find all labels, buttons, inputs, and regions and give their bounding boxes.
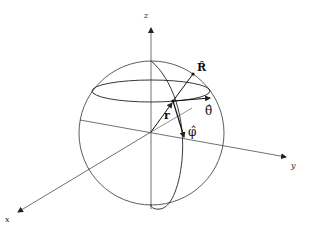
R-hat-label: R̂	[197, 61, 207, 74]
y-axis-label: y	[290, 161, 296, 170]
theta-hat-vector	[173, 98, 210, 101]
meridian-curve	[151, 61, 183, 209]
R-hat-point	[191, 72, 194, 75]
projection-line	[151, 108, 192, 132]
phi-hat-label: φ̂	[188, 125, 196, 139]
theta-hat-label: θ̂	[205, 104, 212, 118]
r-label: r	[164, 109, 170, 122]
x-axis	[18, 132, 151, 212]
phi-hat-vector	[173, 101, 184, 137]
z-axis-label: z	[143, 11, 149, 20]
R-hat-vector	[173, 74, 193, 101]
x-axis-label: x	[5, 215, 10, 224]
spherical-coordinates-diagram: z y x r R̂ θ̂ φ̂	[0, 0, 311, 234]
